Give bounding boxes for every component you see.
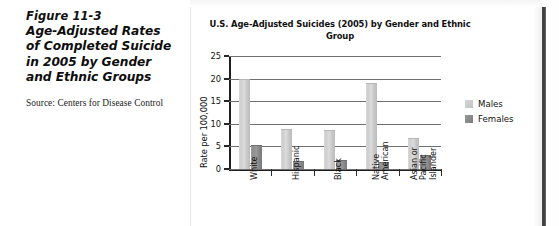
legend-item-females: Females bbox=[465, 114, 537, 124]
y-axis-line bbox=[229, 56, 231, 169]
chart-title: U.S. Age-Adjusted Suicides (2005) by Gen… bbox=[209, 19, 471, 42]
y-tick-mark bbox=[224, 55, 229, 57]
y-tick-mark bbox=[224, 78, 229, 80]
y-tick-label: 10 bbox=[210, 119, 221, 129]
page-top-band bbox=[190, 0, 542, 7]
page-edge-shadow bbox=[542, 7, 546, 226]
legend-swatch-males-icon bbox=[465, 100, 473, 108]
y-tick-label: 5 bbox=[216, 141, 221, 151]
x-tick-mark bbox=[314, 169, 315, 176]
y-tick-label: 15 bbox=[210, 96, 221, 106]
x-category-label: Asian orPacificIslander bbox=[410, 147, 438, 180]
gridline bbox=[229, 124, 441, 125]
chart-panel: U.S. Age-Adjusted Suicides (2005) by Gen… bbox=[190, 0, 542, 226]
y-tick-mark bbox=[224, 100, 229, 102]
gridline bbox=[229, 56, 441, 57]
gridline bbox=[229, 101, 441, 102]
legend-label-males: Males bbox=[478, 99, 503, 109]
legend-item-males: Males bbox=[465, 99, 537, 109]
x-tick-mark bbox=[271, 169, 272, 176]
chart-legend: Males Females bbox=[465, 99, 537, 129]
y-tick-label: 25 bbox=[210, 51, 221, 61]
y-tick-mark bbox=[224, 145, 229, 147]
y-axis-label: Rate per 100,000 bbox=[199, 97, 209, 168]
x-tick-mark bbox=[356, 169, 357, 176]
x-category-label: Hispanic bbox=[292, 146, 301, 180]
y-tick-mark bbox=[224, 168, 229, 170]
legend-swatch-females-icon bbox=[465, 115, 473, 123]
y-tick-mark bbox=[224, 123, 229, 125]
x-tick-mark bbox=[441, 169, 442, 176]
figure-title: Age-Adjusted Rates of Completed Suicide … bbox=[26, 24, 174, 86]
legend-label-females: Females bbox=[478, 114, 514, 124]
y-tick-label: 20 bbox=[210, 74, 221, 84]
figure-page: Figure 11-3 Age-Adjusted Rates of Comple… bbox=[0, 0, 559, 226]
x-tick-mark bbox=[399, 169, 400, 176]
figure-caption-column: Figure 11-3 Age-Adjusted Rates of Comple… bbox=[0, 0, 186, 226]
plot-area: 0510152025 WhiteHispanicBlackNativeAmeri… bbox=[229, 56, 441, 169]
figure-number: Figure 11-3 bbox=[26, 9, 174, 23]
gridline bbox=[229, 79, 441, 80]
page-edge-highlight bbox=[534, 7, 542, 226]
x-category-label: White bbox=[250, 156, 259, 180]
x-category-label: Black bbox=[334, 158, 343, 180]
x-category-label: NativeAmerican bbox=[372, 141, 391, 180]
figure-source-note: Source: Centers for Disease Control bbox=[26, 98, 174, 109]
y-tick-label: 0 bbox=[216, 164, 221, 174]
